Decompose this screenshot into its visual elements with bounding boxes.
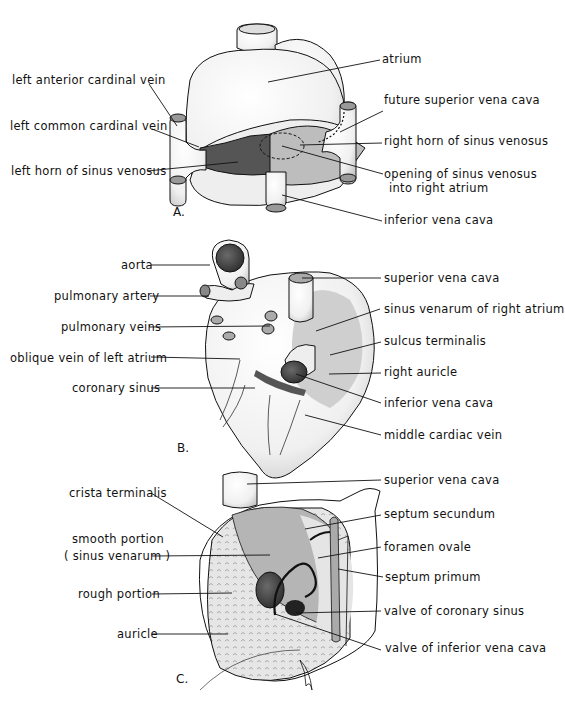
panel-letter-b: B. (177, 441, 189, 455)
label-atrium: atrium (382, 53, 422, 66)
label-coronary-sinus: coronary sinus (72, 382, 160, 395)
label-sinus-venarum: ( sinus venarum ) (64, 550, 170, 563)
label-into-right-atrium: into right atrium (389, 182, 488, 195)
label-smooth-portion: smooth portion (72, 533, 164, 546)
label-valve-of-inferior-vena-cava: valve of inferior vena cava (385, 642, 546, 655)
label-left-common-cardinal-vein: left common cardinal vein (10, 120, 167, 133)
label-right-auricle: right auricle (384, 366, 457, 379)
label-septum-primum: septum primum (385, 571, 481, 584)
label-aorta: aorta (121, 259, 153, 272)
panel-letter-c: C. (176, 672, 188, 686)
label-valve-of-coronary-sinus: valve of coronary sinus (384, 605, 524, 618)
label-sulcus-terminalis: sulcus terminalis (384, 335, 486, 348)
label-inferior-vena-cava-a: inferior vena cava (384, 214, 493, 227)
label-pulmonary-artery: pulmonary artery (54, 290, 159, 303)
panel-letter-a: A. (173, 205, 185, 219)
label-pulmonary-veins: pulmonary veins (61, 321, 161, 334)
panel-a-drawing (170, 24, 365, 212)
label-crista-terminalis: crista terminalis (69, 487, 167, 500)
label-inferior-vena-cava-b: inferior vena cava (384, 397, 493, 410)
label-middle-cardiac-vein: middle cardiac vein (384, 429, 502, 442)
label-rough-portion: rough portion (78, 588, 160, 601)
label-auricle: auricle (117, 628, 158, 641)
label-left-anterior-cardinal-vein: left anterior cardinal vein (12, 74, 166, 87)
label-oblique-vein-of-left-atrium: oblique vein of left atrium (10, 352, 167, 365)
label-sinus-venarum-of-right-atrium: sinus venarum of right atrium (384, 303, 565, 316)
label-septum-secundum: septum secundum (384, 508, 495, 521)
label-superior-vena-cava-b: superior vena cava (384, 272, 500, 285)
label-right-horn-of-sinus-venosus: right horn of sinus venosus (384, 135, 548, 148)
label-foramen-ovale: foramen ovale (384, 541, 471, 554)
label-superior-vena-cava-c: superior vena cava (384, 474, 500, 487)
label-opening-of-sinus-venosus: opening of sinus venosus (384, 168, 537, 181)
label-future-superior-vena-cava: future superior vena cava (384, 94, 540, 107)
label-left-horn-of-sinus-venosus: left horn of sinus venosus (11, 165, 167, 178)
panel-c-drawing (199, 472, 380, 690)
